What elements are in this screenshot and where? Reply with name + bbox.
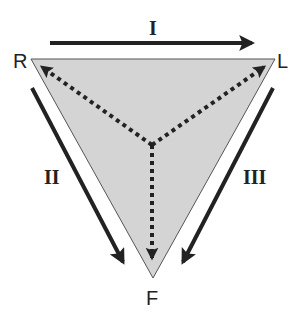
ternary-diagram: R L F I II III	[0, 0, 303, 318]
vertex-label-R: R	[13, 50, 27, 72]
vertex-label-L: L	[277, 50, 288, 72]
transition-label-II: II	[44, 166, 60, 188]
transition-label-I: I	[149, 17, 157, 39]
triangle	[31, 59, 275, 278]
transition-label-III: III	[243, 166, 267, 188]
vertex-label-F: F	[146, 287, 158, 309]
